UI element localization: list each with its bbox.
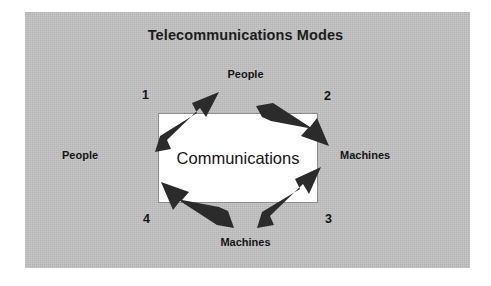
mode-arrow-2 bbox=[256, 103, 329, 146]
mode-number-2: 2 bbox=[324, 89, 331, 103]
mode-arrow-4 bbox=[161, 182, 234, 228]
node-label-people-top: People bbox=[0, 68, 491, 80]
mode-arrow-1 bbox=[155, 92, 219, 152]
node-label-machines-right: Machines bbox=[340, 149, 390, 161]
figure-title: Telecommunications Modes bbox=[0, 27, 491, 43]
node-label-machines-bottom: Machines bbox=[0, 236, 491, 248]
mode-number-1: 1 bbox=[142, 88, 149, 102]
node-label-people-left: People bbox=[62, 149, 98, 161]
mode-number-3: 3 bbox=[325, 212, 332, 226]
mode-arrow-3 bbox=[257, 167, 321, 228]
telecommunications-modes-figure: Telecommunications Modes Communications … bbox=[0, 0, 491, 286]
mode-number-4: 4 bbox=[143, 212, 150, 226]
